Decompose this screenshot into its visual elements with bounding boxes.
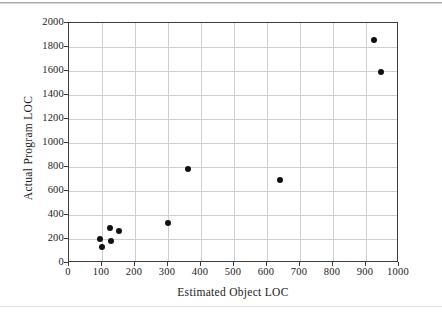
- y-tick-mark: [64, 190, 68, 191]
- gridline-vertical: [267, 23, 268, 261]
- x-tick-mark: [332, 262, 333, 266]
- x-tick-mark: [365, 262, 366, 266]
- gridline-vertical: [102, 23, 103, 261]
- y-tick-label: 800: [4, 161, 64, 172]
- gridline-horizontal: [69, 119, 397, 120]
- data-point: [185, 166, 191, 172]
- x-tick-mark: [134, 262, 135, 266]
- gridline-vertical: [333, 23, 334, 261]
- x-tick-mark: [200, 262, 201, 266]
- x-tick-mark: [299, 262, 300, 266]
- y-tick-label: 1000: [4, 137, 64, 148]
- y-tick-mark: [64, 214, 68, 215]
- data-point: [371, 37, 377, 43]
- gridline-vertical: [234, 23, 235, 261]
- y-tick-mark: [64, 46, 68, 47]
- data-point: [165, 220, 171, 226]
- y-tick-mark: [64, 118, 68, 119]
- x-tick-mark: [167, 262, 168, 266]
- x-tick-mark: [101, 262, 102, 266]
- x-axis-tick-labels: 01002003004005006007008009001000: [68, 267, 398, 281]
- data-point: [378, 69, 384, 75]
- y-tick-mark: [64, 70, 68, 71]
- data-point: [99, 244, 105, 250]
- data-point: [116, 228, 122, 234]
- gridline-horizontal: [69, 215, 397, 216]
- y-tick-label: 400: [4, 209, 64, 220]
- y-tick-label: 0: [4, 257, 64, 268]
- x-tick-label: 1000: [368, 267, 428, 278]
- y-tick-label: 1400: [4, 89, 64, 100]
- data-point: [277, 177, 283, 183]
- gridline-horizontal: [69, 167, 397, 168]
- gridline-horizontal: [69, 95, 397, 96]
- gridline-vertical: [201, 23, 202, 261]
- plot-area: [68, 22, 398, 262]
- x-tick-mark: [266, 262, 267, 266]
- y-tick-mark: [64, 238, 68, 239]
- gridline-horizontal: [69, 47, 397, 48]
- y-tick-mark: [64, 94, 68, 95]
- gridline-horizontal: [69, 191, 397, 192]
- scatter-chart-figure: 0200400600800100012001400160018002000 01…: [0, 0, 442, 313]
- y-tick-mark: [64, 142, 68, 143]
- gridline-vertical: [366, 23, 367, 261]
- gridline-vertical: [135, 23, 136, 261]
- gridline-horizontal: [69, 71, 397, 72]
- gridline-horizontal: [69, 239, 397, 240]
- gridline-horizontal: [69, 143, 397, 144]
- x-tick-mark: [233, 262, 234, 266]
- data-point: [107, 225, 113, 231]
- y-tick-label: 600: [4, 185, 64, 196]
- y-tick-mark: [64, 166, 68, 167]
- x-tick-mark: [398, 262, 399, 266]
- gridline-vertical: [300, 23, 301, 261]
- y-tick-mark: [64, 22, 68, 23]
- y-tick-label: 1600: [4, 65, 64, 76]
- y-tick-label: 1800: [4, 41, 64, 52]
- data-point: [108, 238, 114, 244]
- x-tick-mark: [68, 262, 69, 266]
- y-tick-label: 200: [4, 233, 64, 244]
- y-axis-title: Actual Program LOC: [22, 58, 34, 238]
- x-axis-title: Estimated Object LOC: [68, 286, 398, 298]
- y-tick-label: 2000: [4, 17, 64, 28]
- y-tick-label: 1200: [4, 113, 64, 124]
